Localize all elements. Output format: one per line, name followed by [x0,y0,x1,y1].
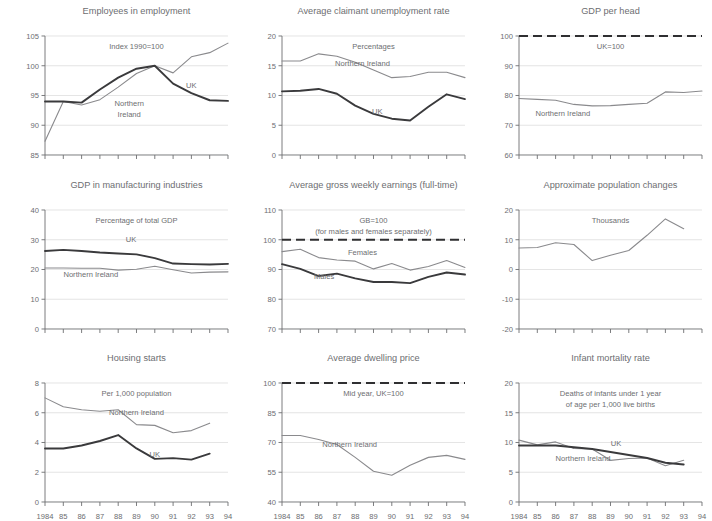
x-tick-label: 86 [551,512,559,521]
y-tick-label: 20 [31,265,39,274]
x-tick-label: 89 [132,512,140,521]
y-tick-label: 105 [26,32,39,41]
series-line-males [282,264,465,283]
y-tick-label: 100 [263,235,276,244]
x-tick-label: 1984 [37,512,54,521]
y-tick-label: 20 [505,379,513,388]
y-tick-label: 80 [268,295,276,304]
chart-panel-average-claimant-unemployment-rate: Average claimant unemployment ratePercen… [237,0,474,174]
chart-subtitle: Deaths of infants under 1 year [560,389,662,398]
x-tick-label: 85 [59,512,67,521]
chart-panel-employees-in-employment: Employees in employmentIndex 1990=100859… [0,0,237,174]
y-tick-label: 85 [268,409,276,418]
series-annotation: Northern Ireland [322,441,377,450]
x-tick-label: 91 [406,512,414,521]
x-tick-label: 90 [625,512,633,521]
y-tick-label: 4 [35,439,39,448]
chart-title: GDP per head [581,6,640,16]
x-tick-label: 88 [351,512,359,521]
y-tick-label: 10 [505,235,513,244]
chart-title: Employees in employment [83,6,191,16]
y-tick-label: 15 [268,62,276,71]
x-tick-label: 87 [96,512,104,521]
y-tick-label: 10 [505,439,513,448]
series-annotation: Ireland [118,110,141,119]
series-line-uk [45,66,228,103]
chart-panel-average-dwelling-price: Average dwelling priceMid year, UK=10040… [237,347,474,521]
series-annotation: UK [126,235,137,244]
y-tick-label: 70 [268,439,276,448]
chart-subtitle: Thousands [592,216,630,225]
chart-subtitle: Percentages [352,42,395,51]
y-tick-label: 0 [509,265,513,274]
x-tick-label: 85 [533,512,541,521]
chart-title: Average dwelling price [327,353,419,363]
chart-title: Housing starts [107,353,166,363]
y-tick-label: 95 [31,91,39,100]
x-tick-label: 89 [606,512,614,521]
series-annotation: Northern Ireland [335,59,390,68]
x-tick-label: 90 [151,512,159,521]
y-tick-label: 100 [263,379,276,388]
x-tick-label: 86 [314,512,322,521]
series-annotation: UK [186,81,197,90]
x-tick-label: 88 [114,512,122,521]
x-tick-label: 86 [77,512,85,521]
y-tick-label: 20 [505,205,513,214]
x-tick-label: 1984 [274,512,291,521]
y-tick-label: 85 [31,151,39,160]
series-line-uk [45,250,228,265]
y-tick-label: 10 [268,91,276,100]
chart-title: Average claimant unemployment rate [297,6,449,16]
chart-title: Infant mortality rate [571,353,650,363]
chart-panel-approximate-population-changes: Approximate population changesThousands-… [474,174,711,348]
x-tick-label: 93 [205,512,213,521]
x-tick-label: 85 [296,512,304,521]
y-tick-label: 55 [268,468,276,477]
series-annotation: Northern Ireland [63,269,118,278]
x-tick-label: 92 [661,512,669,521]
chart-panel-average-gross-weekly-earnings: Average gross weekly earnings (full-time… [237,174,474,348]
series-annotation: Northern Ireland [109,408,164,417]
x-tick-label: 94 [461,512,469,521]
series-annotation: Males [314,272,334,281]
x-tick-label: 1984 [511,512,528,521]
chart-subtitle: GB=100 [359,216,387,225]
statistics-figure-sheet: Employees in employmentIndex 1990=100859… [0,0,712,521]
series-annotation: UK [611,439,622,448]
chart-subtitle: Mid year, UK=100 [343,389,403,398]
y-tick-label: 0 [35,324,39,333]
y-tick-label: 40 [31,205,39,214]
y-tick-label: 0 [272,151,276,160]
series-annotation: Northern Ireland [536,109,591,118]
chart-panel-gdp-in-manufacturing-industries: GDP in manufacturing industriesPercentag… [0,174,237,348]
y-tick-label: 90 [268,265,276,274]
y-tick-label: 70 [505,121,513,130]
series-annotation: UK [150,450,161,459]
x-tick-label: 89 [369,512,377,521]
y-tick-label: 100 [26,62,39,71]
chart-subtitle: Per 1,000 population [102,389,172,398]
chart-panel-housing-starts: Housing startsPer 1,000 population02468N… [0,347,237,521]
x-tick-label: 94 [224,512,232,521]
y-tick-label: 40 [268,498,276,507]
y-tick-label: -20 [502,324,513,333]
chart-panel-gdp-per-head: GDP per headUK=10060708090100Northern Ir… [474,0,711,174]
y-tick-label: 8 [35,379,39,388]
y-tick-label: 60 [505,151,513,160]
series-annotation: Northern [114,99,143,108]
chart-title: GDP in manufacturing industries [70,180,202,190]
y-tick-label: 100 [500,32,513,41]
y-tick-label: 70 [268,324,276,333]
x-tick-label: 87 [570,512,578,521]
y-tick-label: -10 [502,295,513,304]
chart-subtitle: Index 1990=100 [109,42,164,51]
y-tick-label: 0 [35,498,39,507]
x-tick-label: 92 [424,512,432,521]
chart-panel-infant-mortality-rate: Infant mortality rateDeaths of infants u… [474,347,711,521]
y-tick-label: 80 [505,91,513,100]
x-tick-label: 93 [679,512,687,521]
chart-title: Average gross weekly earnings (full-time… [289,180,457,190]
series-annotation: Females [348,248,377,257]
y-tick-label: 110 [264,205,276,214]
